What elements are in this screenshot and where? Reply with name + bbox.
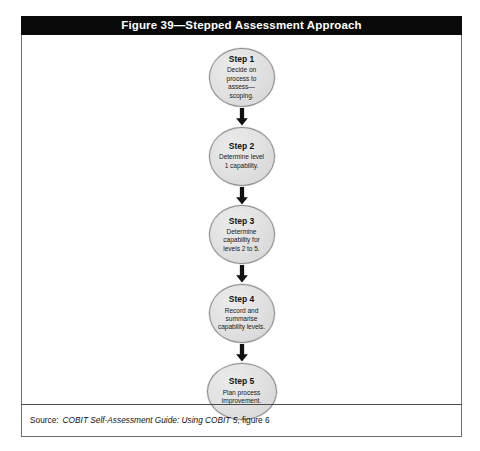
down-arrow-icon	[235, 108, 249, 126]
figure-source: Source:COBIT Self-Assessment Guide: Usin…	[30, 416, 270, 426]
down-arrow-icon	[235, 265, 249, 283]
flow-node-description: Determine level 1 capability.	[210, 153, 274, 170]
flow-node-title: Step 2	[229, 142, 255, 151]
flow-node-description: Record and summarise capability levels.	[210, 307, 274, 332]
flow-node-title: Step 4	[229, 295, 255, 304]
figure-title: Figure 39—Stepped Assessment Approach	[121, 20, 362, 32]
down-arrow-icon	[235, 344, 249, 362]
flow-node-step-1: Step 1 Decide on process to assess—scopi…	[209, 48, 275, 107]
source-reference: , figure 6	[237, 415, 269, 425]
flow-node-step-2: Step 2 Determine level 1 capability.	[209, 127, 275, 186]
flow-diagram: Step 1 Decide on process to assess—scopi…	[22, 35, 461, 420]
figure-frame: Step 1 Decide on process to assess—scopi…	[21, 16, 462, 437]
figure-source-row: Source:COBIT Self-Assessment Guide: Usin…	[21, 404, 462, 437]
flow-node-description: Plan process improvement.	[208, 389, 276, 406]
flow-node-title: Step 5	[229, 377, 255, 386]
flow-node-step-3: Step 3 Determine capability for levels 2…	[209, 205, 275, 264]
source-label: Source:	[30, 415, 59, 425]
flow-node-description: Determine capability for levels 2 to 5.	[210, 228, 274, 253]
flow-node-title: Step 3	[229, 217, 255, 226]
flow-node-title: Step 1	[229, 55, 255, 64]
source-title: COBIT Self-Assessment Guide: Using COBIT…	[63, 415, 238, 425]
flow-node-description: Decide on process to assess—scoping.	[210, 66, 274, 100]
figure-title-bar: Figure 39—Stepped Assessment Approach	[21, 16, 462, 35]
flow-node-step-4: Step 4 Record and summarise capability l…	[209, 284, 275, 343]
down-arrow-icon	[235, 187, 249, 205]
